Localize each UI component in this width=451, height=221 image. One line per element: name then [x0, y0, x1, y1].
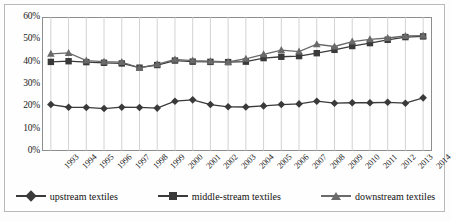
y-tick-label: 10% — [4, 123, 40, 133]
x-axis: 1993199419951996199719981999200020012002… — [42, 152, 432, 186]
data-point-diamond — [260, 102, 268, 110]
x-tick-label: 2002 — [221, 152, 240, 171]
legend-marker-square-icon — [169, 192, 177, 200]
legend-item-downstream-textiles[interactable]: downstream textiles — [321, 190, 435, 202]
data-point-diamond — [189, 96, 197, 104]
data-point-square — [314, 50, 320, 56]
chart-legend: upstream textilesmiddle-stream textilesd… — [10, 186, 441, 206]
legend-key-square-icon — [158, 190, 188, 202]
series-upstream-textiles — [47, 94, 427, 112]
y-tick-label: 50% — [4, 33, 40, 43]
data-point-square — [48, 59, 54, 65]
x-tick-label: 2001 — [203, 152, 222, 171]
y-tick-label: 40% — [4, 56, 40, 66]
y-tick-label: 30% — [4, 78, 40, 88]
y-tick-label: 20% — [4, 100, 40, 110]
data-point-triangle — [313, 40, 321, 47]
data-point-diamond — [207, 101, 215, 109]
x-tick-label: 2009 — [345, 152, 364, 171]
data-point-square — [65, 58, 71, 64]
x-tick-label: 2010 — [363, 152, 382, 171]
data-point-diamond — [419, 94, 427, 102]
x-tick-label: 1996 — [115, 152, 134, 171]
x-tick-label: 2011 — [381, 152, 399, 170]
data-point-diamond — [224, 103, 232, 111]
x-tick-label: 1997 — [133, 152, 152, 171]
legend-label: downstream textiles — [355, 191, 435, 202]
x-tick-label: 1993 — [62, 152, 81, 171]
legend-marker-triangle-icon — [331, 192, 341, 200]
data-point-triangle — [278, 46, 286, 53]
data-point-diamond — [171, 97, 179, 105]
data-point-diamond — [65, 103, 73, 111]
legend-key-diamond-icon — [16, 190, 46, 202]
data-point-diamond — [295, 100, 303, 108]
x-tick-label: 2005 — [274, 152, 293, 171]
data-point-diamond — [402, 99, 410, 107]
data-point-diamond — [278, 101, 286, 109]
data-point-diamond — [348, 99, 356, 107]
y-tick-label: 60% — [4, 11, 40, 21]
x-tick-label: 2008 — [328, 152, 347, 171]
legend-label: middle-stream textiles — [192, 191, 281, 202]
data-point-diamond — [153, 104, 161, 112]
plot-wrapper — [42, 17, 432, 151]
data-point-diamond — [136, 104, 144, 112]
x-tick-label: 1995 — [97, 152, 116, 171]
series-layer — [42, 17, 432, 151]
legend-item-middle-stream-textiles[interactable]: middle-stream textiles — [158, 190, 281, 202]
data-point-diamond — [242, 103, 250, 111]
x-tick-label: 1998 — [150, 152, 169, 171]
x-tick-label: 2007 — [310, 152, 329, 171]
data-point-diamond — [100, 105, 108, 113]
x-tick-label: 2006 — [292, 152, 311, 171]
legend-item-upstream-textiles[interactable]: upstream textiles — [16, 190, 118, 202]
data-point-square — [278, 54, 284, 60]
legend-key-triangle-icon — [321, 190, 351, 202]
data-point-diamond — [47, 101, 55, 109]
x-tick-label: 1994 — [79, 152, 98, 171]
y-tick-label: 0% — [4, 145, 40, 155]
x-tick-label: 2000 — [186, 152, 205, 171]
data-point-diamond — [331, 99, 339, 107]
data-point-diamond — [313, 97, 321, 105]
x-tick-label: 2004 — [257, 152, 276, 171]
data-point-diamond — [384, 99, 392, 107]
chart-figure: 0%10%20%30%40%50%60% 1993199419951996199… — [0, 0, 451, 221]
data-point-diamond — [118, 103, 126, 111]
x-tick-label: 2012 — [398, 152, 417, 171]
x-tick-label: 1999 — [168, 152, 187, 171]
x-tick-label: 2003 — [239, 152, 258, 171]
legend-label: upstream textiles — [50, 191, 118, 202]
data-point-diamond — [83, 104, 91, 112]
legend-marker-diamond-icon — [25, 190, 36, 201]
data-point-diamond — [366, 99, 374, 107]
